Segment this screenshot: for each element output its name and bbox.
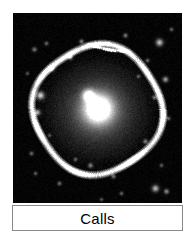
caption-box: Calls xyxy=(12,205,183,231)
astronomical-image-panel[interactable] xyxy=(13,13,182,203)
figure-card: Calls xyxy=(0,0,195,238)
galaxy-image-canvas xyxy=(13,13,182,203)
figure-caption-label: Calls xyxy=(13,206,182,230)
